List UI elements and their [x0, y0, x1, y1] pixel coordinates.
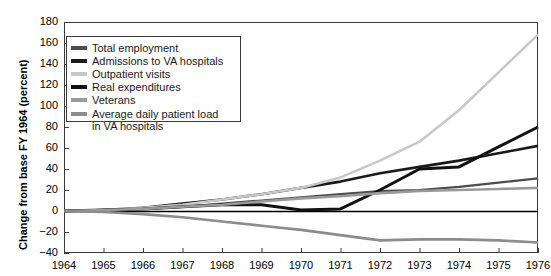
- legend-color-swatch: [71, 59, 87, 63]
- chart-container: Change from base FY 1964 (percent) −40−2…: [0, 0, 551, 276]
- legend-continuation-label: in VA hospitals: [92, 120, 240, 132]
- series-line: [64, 211, 538, 243]
- legend-item-label: Admissions to VA hospitals: [92, 55, 223, 67]
- legend-item-label: Total employment: [92, 42, 178, 54]
- series-line: [64, 146, 538, 211]
- legend-item: Veterans: [71, 94, 240, 107]
- legend: Total employmentAdmissions to VA hospita…: [66, 36, 241, 122]
- legend-color-swatch: [71, 112, 87, 116]
- legend-item: Average daily patient load: [71, 107, 240, 120]
- legend-color-swatch: [71, 46, 87, 50]
- legend-item-label: Real expenditures: [92, 81, 181, 93]
- legend-item-label: Veterans: [92, 94, 135, 106]
- legend-color-swatch: [71, 72, 87, 76]
- legend-item-label: Average daily patient load: [92, 108, 218, 120]
- legend-item: Admissions to VA hospitals: [71, 54, 240, 67]
- legend-item-label: Outpatient visits: [92, 68, 170, 80]
- legend-color-swatch: [71, 85, 87, 89]
- legend-item: Outpatient visits: [71, 67, 240, 80]
- legend-color-swatch: [71, 98, 87, 102]
- legend-item: Total employment: [71, 41, 240, 54]
- series-line: [64, 178, 538, 211]
- legend-item: Real expenditures: [71, 81, 240, 94]
